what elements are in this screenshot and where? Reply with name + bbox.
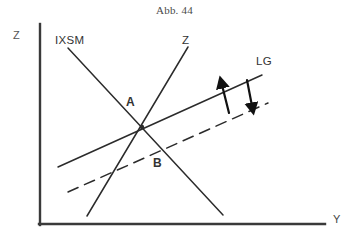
arrow-up-icon: [222, 85, 229, 113]
curve-lg: [58, 75, 262, 167]
intersection-marker-a: [140, 125, 144, 129]
curve-ixsm: [68, 48, 223, 215]
curve-label-z: Z: [182, 35, 189, 47]
arrow-down-icon: [247, 80, 252, 106]
y-axis-label: Z: [13, 30, 20, 41]
figure-container: Abb. 44 Z Y: [0, 0, 349, 245]
curve-lg-shifted-dashed: [68, 103, 268, 192]
point-label-b: B: [153, 157, 162, 169]
curve-label-lg: LG: [256, 56, 272, 68]
axes-group: [39, 24, 325, 225]
point-label-a: A: [126, 96, 135, 108]
diagram-canvas: [0, 0, 349, 245]
curve-label-ixsm: IXSM: [55, 35, 84, 47]
x-axis-label: Y: [333, 214, 340, 225]
